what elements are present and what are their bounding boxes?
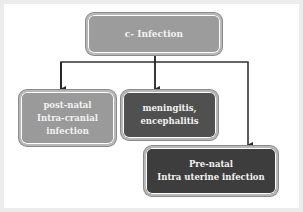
node-line: meningitis,	[142, 102, 196, 115]
node-line: Intra uterine infection	[157, 171, 264, 184]
node-postnatal: post-natal Intra-cranial infection	[19, 90, 116, 146]
node-line: encephalitis	[140, 115, 198, 128]
node-meningitis: meningitis, encephalitis	[121, 90, 218, 140]
root-node-infection: c- Infection	[86, 13, 222, 55]
node-prenatal: Pre-natal Intra uterine infection	[144, 146, 278, 196]
node-line: Intra-cranial	[37, 112, 98, 125]
root-label: c- Infection	[125, 28, 183, 41]
node-line: post-natal	[43, 99, 91, 112]
node-line: infection	[46, 125, 89, 138]
node-line: Pre-natal	[189, 158, 233, 171]
